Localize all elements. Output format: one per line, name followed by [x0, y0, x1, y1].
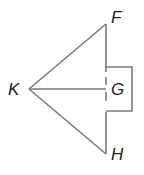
- label-g: G: [111, 81, 124, 98]
- segment-kf: [29, 24, 106, 89]
- label-f: F: [111, 9, 121, 26]
- label-h: H: [111, 146, 123, 163]
- segment-kh: [29, 89, 106, 154]
- label-k: K: [8, 81, 19, 98]
